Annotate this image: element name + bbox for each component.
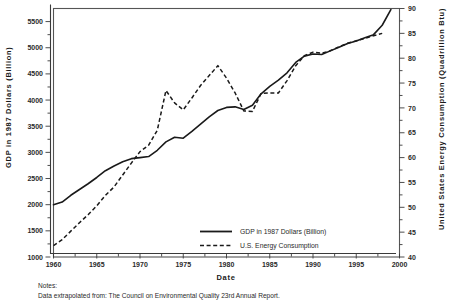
x-tick-label: 1995	[348, 261, 364, 268]
notes-heading: Notes:	[38, 282, 57, 289]
right-tick-label: 80	[408, 55, 416, 62]
x-axis-tick-labels: 196019651970197519801985199019952000	[46, 261, 408, 268]
x-tick-label: 2000	[392, 261, 408, 268]
right-tick-label: 75	[408, 80, 416, 87]
x-tick-label: 1985	[262, 261, 278, 268]
right-tick-label: 85	[408, 30, 416, 37]
x-tick-label: 1960	[46, 261, 62, 268]
right-tick-label: 65	[408, 129, 416, 136]
left-tick-label: 3500	[27, 123, 43, 130]
x-axis-title: Date	[216, 273, 235, 282]
right-tick-label: 55	[408, 179, 416, 186]
left-tick-label: 1500	[27, 227, 43, 234]
right-tick-label: 45	[408, 229, 416, 236]
x-tick-label: 1965	[89, 261, 105, 268]
chart-svg: 1000150020002500300035004000450050005500…	[0, 0, 451, 303]
y-axis-title: GDP in 1987 Dollars (Billion)	[4, 47, 13, 168]
x-tick-label: 1980	[219, 261, 235, 268]
right-tick-label: 50	[408, 204, 416, 211]
legend-label-energy: U.S. Energy Consumption	[240, 242, 319, 250]
x-tick-label: 1970	[132, 261, 148, 268]
left-tick-label: 4500	[27, 70, 43, 77]
left-tick-label: 5500	[27, 18, 43, 25]
notes-body: Data extrapolated from: The Council on E…	[38, 292, 280, 300]
left-tick-label: 2000	[27, 201, 43, 208]
right-tick-label: 40	[408, 254, 416, 261]
left-tick-label: 4000	[27, 97, 43, 104]
y2-axis-title: United States Energy Consumption (Quadri…	[437, 8, 446, 230]
x-tick-label: 1975	[175, 261, 191, 268]
legend-label-gdp: GDP in 1987 Dollars (Billion)	[240, 228, 326, 236]
right-tick-label: 90	[408, 5, 416, 12]
x-tick-label: 1990	[305, 261, 321, 268]
left-tick-label: 2500	[27, 175, 43, 182]
right-tick-label: 60	[408, 154, 416, 161]
right-tick-label: 70	[408, 105, 416, 112]
left-tick-label: 5000	[27, 44, 43, 51]
left-tick-label: 3000	[27, 149, 43, 156]
chart-figure: 1000150020002500300035004000450050005500…	[0, 0, 451, 303]
left-tick-label: 1000	[27, 254, 43, 261]
